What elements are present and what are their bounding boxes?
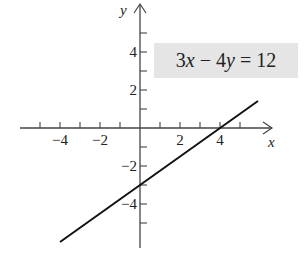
eq-var-x: x [186,49,195,72]
line-series [60,101,258,242]
eq-var-y: y [226,49,235,72]
graph: −4 −2 2 4 4 2 −2 −4 x y [0,0,307,259]
equation-label: 3x − 4y = 12 [154,43,298,78]
x-axis-label: x [267,134,275,150]
eq-operator: − [195,49,216,72]
x-tick-label: 4 [216,132,224,148]
y-tick-label: 2 [130,82,138,98]
x-tick-label: 2 [176,132,184,148]
x-tick-label: −4 [52,132,68,148]
y-tick-label: 4 [130,44,138,60]
eq-coef-a: 3 [176,49,186,72]
y-axis-label: y [118,2,127,18]
y-tick-label: −2 [121,158,137,174]
y-tick-label: −4 [121,196,137,212]
eq-rhs: = 12 [235,49,276,72]
eq-coef-b: 4 [216,49,226,72]
x-tick-label: −2 [92,132,108,148]
